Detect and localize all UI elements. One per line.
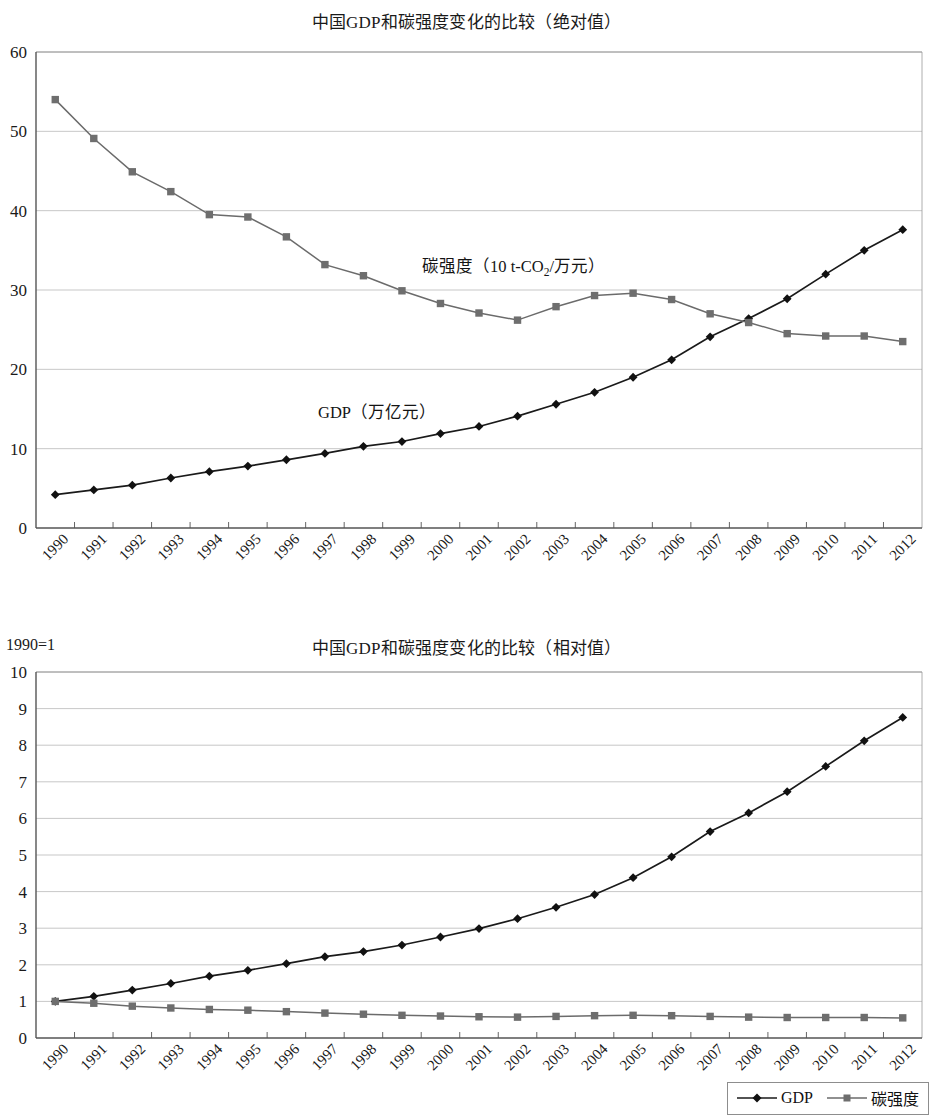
chart-relative-plot: 0123456789101990199119921993199419951996… [0,610,933,1117]
x-axis-tick-label: 2012 [886,1041,919,1074]
y-axis-tick-label: 20 [10,360,27,379]
data-point-marker [822,1014,829,1021]
data-point-marker [629,1012,636,1019]
data-point-marker [206,211,213,218]
annotation-carbon-intensity: 碳强度（10 t-CO2/万元） [422,257,605,278]
data-point-marker [129,1002,136,1009]
x-axis-tick-label: 2001 [463,531,496,564]
data-point-marker [706,827,715,836]
data-point-marker [898,225,907,234]
x-axis-tick-label: 2007 [694,530,727,563]
data-point-marker [398,941,407,950]
chart-absolute-plot: 0102030405060199019911992199319941995199… [0,0,933,610]
x-axis-tick-label: 2004 [578,530,611,563]
x-axis-tick-label: 1998 [347,531,380,564]
data-point-marker [745,1013,752,1020]
data-point-marker [591,292,598,299]
data-point-marker [552,303,559,310]
data-point-marker [89,992,98,1001]
data-point-marker [706,310,713,317]
y-axis-tick-label: 8 [19,736,28,755]
data-point-marker [282,959,291,968]
data-point-marker [321,449,330,458]
data-point-marker [436,933,445,942]
x-axis-tick-label: 2008 [732,531,765,564]
data-point-marker [129,168,136,175]
data-point-marker [860,246,869,255]
data-point-marker [166,474,175,483]
data-point-marker [244,213,251,220]
x-axis-tick-label: 2001 [463,1041,496,1074]
y-axis-tick-label: 2 [19,956,28,975]
data-point-marker [629,373,638,382]
data-point-marker [167,1004,174,1011]
data-point-marker [437,1012,444,1019]
data-point-marker [90,1000,97,1007]
data-point-marker [899,1014,906,1021]
data-point-marker [591,1012,598,1019]
x-axis-tick-label: 1996 [270,530,303,563]
data-point-marker [475,422,484,431]
data-point-marker [128,986,137,995]
data-point-marker [706,332,715,341]
y-axis-tick-label: 6 [19,809,28,828]
x-axis-tick-label: 2002 [501,531,534,564]
data-point-marker [629,873,638,882]
x-axis-tick-label: 1997 [309,530,342,563]
legend-entry-gdp: GDP [737,1089,813,1107]
x-axis-tick-label: 2012 [886,531,919,564]
x-axis-tick-label: 2010 [809,1041,842,1074]
data-point-marker [243,966,252,975]
y-axis-tick-label: 10 [10,663,27,682]
x-axis-tick-label: 2006 [655,1040,688,1073]
x-axis-tick-label: 1993 [154,531,187,564]
x-axis-tick-label: 1996 [270,1040,303,1073]
x-axis-tick-label: 2005 [617,1041,650,1074]
y-axis-tick-label: 30 [10,281,27,300]
x-axis-tick-label: 1991 [77,531,110,564]
data-point-marker [359,947,368,956]
x-axis-tick-label: 1994 [193,1040,226,1073]
data-point-marker [360,1011,367,1018]
x-axis-tick-label: 2006 [655,530,688,563]
data-point-marker [89,486,98,495]
x-axis-tick-label: 1995 [231,1041,264,1074]
y-axis-tick-label: 10 [10,440,27,459]
data-point-marker [283,233,290,240]
y-axis-tick-label: 3 [19,919,28,938]
data-point-marker [436,429,445,438]
data-point-marker [398,1012,405,1019]
x-axis-tick-label: 1997 [309,1040,342,1073]
y-axis-tick-label: 5 [19,846,28,865]
data-point-marker [783,1014,790,1021]
data-point-marker [668,1012,675,1019]
y-axis-tick-label: 1 [19,992,28,1011]
data-point-marker [552,903,561,912]
y-axis-tick-label: 7 [19,773,28,792]
data-point-marker [822,332,829,339]
y-axis-tick-label: 40 [10,202,27,221]
x-axis-tick-label: 1993 [154,1041,187,1074]
x-axis-tick-label: 2008 [732,1041,765,1074]
data-point-marker [360,272,367,279]
x-axis-tick-label: 1999 [386,1041,419,1074]
data-point-marker [282,455,291,464]
x-axis-tick-label: 2009 [771,531,804,564]
x-axis-tick-label: 1991 [77,1041,110,1074]
x-axis-tick-label: 2000 [424,531,457,564]
data-point-marker [514,316,521,323]
x-axis-tick-label: 2000 [424,1041,457,1074]
legend-entry-intensity: 碳强度 [827,1086,919,1110]
square-marker-icon [827,1092,867,1104]
data-point-marker [166,979,175,988]
legend-label-intensity: 碳强度 [871,1086,919,1110]
data-point-marker [899,338,906,345]
x-axis-tick-label: 1994 [193,530,226,563]
data-point-marker [128,481,137,490]
data-point-marker [783,787,792,796]
diamond-marker-icon [737,1092,777,1104]
legend-label-gdp: GDP [781,1089,813,1107]
x-axis-tick-label: 2007 [694,1040,727,1073]
data-point-marker [398,287,405,294]
x-axis-tick-label: 1998 [347,1041,380,1074]
